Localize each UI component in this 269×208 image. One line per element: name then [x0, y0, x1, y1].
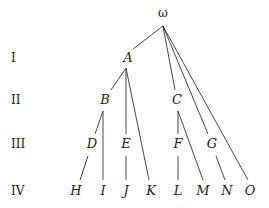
edge-omega-G [163, 26, 208, 134]
node-J: J [120, 183, 129, 198]
edge-G-N [216, 156, 225, 180]
edge-A-B [111, 68, 126, 90]
node-H: H [69, 183, 82, 198]
node-O: O [245, 183, 256, 198]
node-N: N [220, 183, 233, 198]
level-label: III [11, 137, 25, 151]
node-M: M [195, 183, 210, 198]
node-B: B [99, 92, 110, 107]
node-A: A [122, 50, 132, 65]
node-omega: ω [158, 6, 168, 20]
node-K: K [145, 183, 157, 198]
node-D: D [86, 136, 98, 151]
level-label: I [11, 51, 16, 65]
node-G: G [207, 136, 217, 151]
edge-omega-A [133, 26, 163, 49]
edge-D-H [80, 156, 88, 180]
node-F: F [172, 136, 183, 151]
node-L: L [173, 183, 183, 198]
edge-B-D [95, 111, 103, 134]
node-I: I [99, 183, 106, 198]
level-label: IV [11, 184, 25, 198]
tree-diagram: IIIIIIIV ωABCDEFGHIJKLMNO [0, 0, 269, 208]
node-C: C [172, 92, 182, 107]
level-label: II [11, 93, 21, 107]
level-labels: IIIIIIIV [11, 51, 25, 198]
node-E: E [120, 136, 131, 151]
nodes: ωABCDEFGHIJKLMNO [69, 6, 255, 198]
edge-omega-C [163, 26, 175, 90]
edge-A-K [126, 68, 149, 180]
